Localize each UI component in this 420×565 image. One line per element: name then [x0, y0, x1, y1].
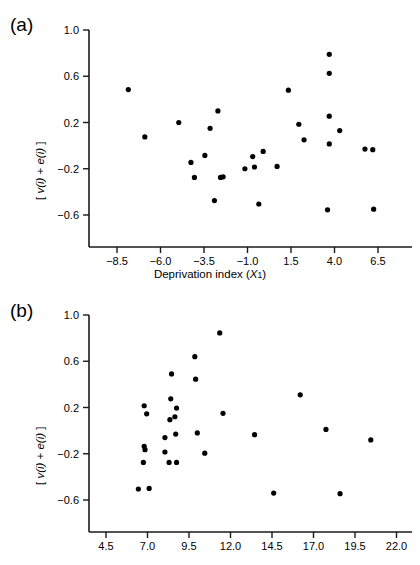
data-point — [136, 486, 141, 491]
x-tick-label: 6.5 — [370, 255, 385, 267]
data-point — [261, 149, 266, 154]
data-point — [370, 147, 375, 152]
y-tick-label: −0.6 — [57, 209, 79, 221]
data-point — [215, 108, 220, 113]
data-point — [325, 207, 330, 212]
data-point — [192, 354, 197, 359]
data-point — [221, 174, 226, 179]
x-tick-label: −6.0 — [150, 255, 172, 267]
plot-area: 1.00.60.2−0.2−0.6−8.5−6.0−3.5−1.01.54.06… — [57, 24, 412, 267]
x-tick-label: −1.0 — [237, 255, 259, 267]
data-point — [212, 198, 217, 203]
data-point — [174, 460, 179, 465]
x-tick-label: 1.5 — [283, 255, 298, 267]
data-point — [256, 201, 261, 206]
data-point — [142, 134, 147, 139]
data-point — [362, 146, 367, 151]
data-point — [286, 88, 291, 93]
data-point — [217, 330, 222, 335]
data-point — [337, 491, 342, 496]
data-point — [220, 411, 225, 416]
x-tick-label: 17.0 — [303, 540, 324, 552]
data-point — [368, 437, 373, 442]
data-point — [327, 141, 332, 146]
y-tick-label: 1.0 — [64, 24, 79, 36]
data-point — [126, 87, 131, 92]
data-point — [202, 451, 207, 456]
x-tick-label: −3.5 — [193, 255, 215, 267]
y-tick-label: −0.2 — [57, 448, 79, 460]
x-tick-label: 4.5 — [98, 540, 113, 552]
data-point — [250, 154, 255, 159]
data-point — [207, 126, 212, 131]
data-point — [193, 377, 198, 382]
data-point — [144, 411, 149, 416]
data-point — [176, 120, 181, 125]
x-tick-label: 14.5 — [261, 540, 282, 552]
data-point — [162, 435, 167, 440]
data-point — [323, 427, 328, 432]
data-point — [142, 447, 147, 452]
data-point — [173, 431, 178, 436]
data-point — [172, 414, 177, 419]
data-point — [371, 207, 376, 212]
data-point — [174, 405, 179, 410]
panel-a: (a) [ v(i) + e(i) ] Deprivation index (X… — [0, 0, 420, 290]
data-point — [141, 460, 146, 465]
data-point — [327, 114, 332, 119]
data-point — [298, 392, 303, 397]
data-point — [271, 490, 276, 495]
data-point — [327, 52, 332, 57]
data-point — [168, 396, 173, 401]
y-tick-label: 0.2 — [64, 402, 79, 414]
data-point — [142, 403, 147, 408]
x-tick-label: 12.0 — [220, 540, 241, 552]
data-point — [192, 175, 197, 180]
y-tick-label: 0.2 — [64, 117, 79, 129]
x-tick-label: −8.5 — [106, 255, 128, 267]
data-point — [327, 71, 332, 76]
panel-a-plot: 1.00.60.2−0.2−0.6−8.5−6.0−3.5−1.01.54.06… — [0, 0, 420, 290]
figure-container: (a) [ v(i) + e(i) ] Deprivation index (X… — [0, 0, 420, 565]
y-tick-label: −0.2 — [57, 163, 79, 175]
data-point — [252, 432, 257, 437]
y-tick-label: 0.6 — [64, 70, 79, 82]
data-point — [296, 122, 301, 127]
x-tick-label: 19.5 — [344, 540, 365, 552]
data-point — [195, 430, 200, 435]
data-point — [166, 460, 171, 465]
panel-b: (b) [ v(i) + e(i) ] 1.00.60.2−0.2−0.64.5… — [0, 290, 420, 565]
data-point — [147, 486, 152, 491]
x-tick-label: 9.5 — [181, 540, 196, 552]
y-tick-label: 0.6 — [64, 355, 79, 367]
data-point — [252, 164, 257, 169]
data-point — [167, 417, 172, 422]
y-tick-label: −0.6 — [57, 494, 79, 506]
plot-area: 1.00.60.2−0.2−0.64.57.09.512.014.517.019… — [57, 309, 412, 552]
data-point — [301, 137, 306, 142]
x-tick-label: 22.0 — [386, 540, 407, 552]
data-point — [337, 128, 342, 133]
panel-b-plot: 1.00.60.2−0.2−0.64.57.09.512.014.517.019… — [0, 290, 420, 565]
data-point — [274, 164, 279, 169]
x-tick-label: 4.0 — [327, 255, 342, 267]
data-point — [169, 371, 174, 376]
data-point — [242, 166, 247, 171]
x-tick-label: 7.0 — [140, 540, 155, 552]
data-point — [188, 160, 193, 165]
data-point — [202, 153, 207, 158]
y-tick-label: 1.0 — [64, 309, 79, 321]
data-point — [162, 449, 167, 454]
